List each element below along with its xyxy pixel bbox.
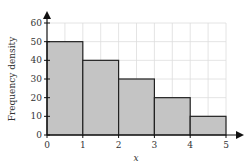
y-tick-label: 30 xyxy=(31,74,43,84)
y-tick-label: 40 xyxy=(31,55,43,65)
x-tick-label: 2 xyxy=(116,140,122,150)
y-tick-label: 0 xyxy=(36,130,42,140)
y-tick-label: 50 xyxy=(31,37,43,47)
x-tick-label: 3 xyxy=(152,140,158,150)
histogram-bar xyxy=(154,98,190,135)
x-tick-label: 4 xyxy=(187,140,193,150)
x-axis-label: x xyxy=(133,153,138,163)
y-axis-label: Frequency density xyxy=(7,36,17,122)
x-tick-label: 1 xyxy=(80,140,86,150)
histogram-bar xyxy=(119,79,155,135)
y-axis-arrow-icon xyxy=(43,11,51,19)
histogram-bar xyxy=(47,42,83,135)
y-tick-label: 20 xyxy=(31,93,43,103)
x-axis-arrow-icon xyxy=(236,131,244,139)
x-tick-label: 0 xyxy=(44,140,50,150)
histogram-chart: 0123450102030405060 x Frequency density xyxy=(0,0,252,168)
histogram-bar xyxy=(83,60,119,135)
x-tick-label: 5 xyxy=(223,140,229,150)
y-tick-label: 60 xyxy=(31,18,43,28)
histogram-bar xyxy=(190,116,226,135)
y-tick-label: 10 xyxy=(31,111,43,121)
